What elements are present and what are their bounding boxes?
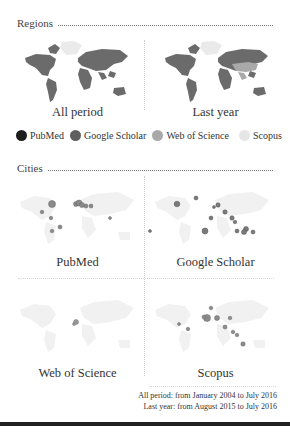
regions-map-last-year — [162, 40, 270, 105]
cities-label-pubmed: PubMed — [10, 255, 145, 270]
legend-label: Google Scholar — [84, 130, 147, 141]
legend-label: Scopus — [253, 130, 282, 141]
pubmed-swatch-icon — [16, 130, 27, 141]
cities-title-rule — [17, 170, 273, 171]
legend: PubMed Google Scholar Web of Science Sco… — [16, 130, 288, 141]
scopus-swatch-icon — [239, 130, 250, 141]
bottom-border — [0, 422, 290, 426]
cities-section-title: Cities — [17, 160, 273, 174]
regions-section-title: Regions — [17, 15, 273, 29]
cities-map-web-of-science — [14, 288, 139, 358]
footnote-divider — [150, 386, 276, 387]
regions-divider — [144, 40, 145, 110]
cities-label-scopus: Scopus — [148, 366, 283, 381]
regions-title-text: Regions — [17, 17, 57, 29]
google-scholar-swatch-icon — [70, 130, 81, 141]
cities-label-google-scholar: Google Scholar — [148, 255, 283, 270]
web-of-science-swatch-icon — [152, 130, 163, 141]
legend-label: PubMed — [30, 130, 64, 141]
cities-map-scopus — [149, 288, 274, 358]
legend-item-scopus: Scopus — [239, 130, 282, 141]
regions-map-all-period — [22, 40, 130, 105]
regions-label-all-period: All period — [10, 105, 145, 120]
legend-label: Web of Science — [166, 130, 229, 141]
footnote-all-period: All period: from January 2004 to July 20… — [138, 391, 277, 400]
cities-title-text: Cities — [17, 162, 47, 174]
legend-item-web-of-science: Web of Science — [152, 130, 229, 141]
legend-item-google-scholar: Google Scholar — [70, 130, 147, 141]
legend-item-pubmed: PubMed — [16, 130, 64, 141]
footnote-last-year: Last year: from August 2015 to July 2016 — [143, 402, 277, 411]
cities-vertical-divider — [144, 176, 145, 376]
cities-map-google-scholar — [149, 180, 274, 250]
cities-label-web-of-science: Web of Science — [10, 366, 145, 381]
cities-map-pubmed — [14, 180, 139, 250]
cities-horizontal-divider — [18, 278, 274, 279]
regions-label-last-year: Last year — [148, 105, 283, 120]
